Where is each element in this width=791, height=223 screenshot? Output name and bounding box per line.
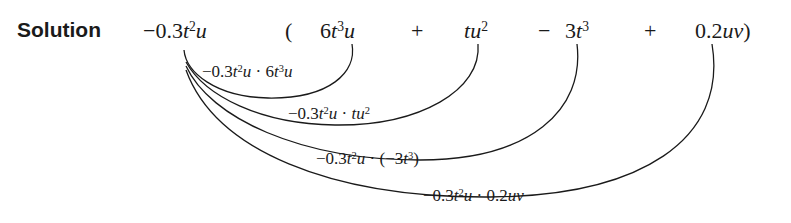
variable: t	[319, 104, 324, 123]
exponent: 2	[324, 105, 329, 116]
product-1: −0.3t2u · 6t3u	[202, 63, 293, 80]
variable: uv	[508, 186, 524, 205]
variable: tu	[352, 104, 365, 123]
dot-operator: ·	[342, 104, 348, 123]
product-coef: −0.3	[288, 104, 319, 123]
variable: u	[357, 149, 366, 168]
exponent: 2	[459, 187, 464, 198]
close-paren: )	[413, 149, 419, 168]
product-3: −0.3t2u · (−3t3)	[316, 150, 419, 167]
exponent: 3	[408, 150, 413, 161]
exponent: 2	[238, 63, 243, 74]
variable: u	[464, 186, 473, 205]
product-coef: 6	[266, 62, 275, 81]
product-coef: 0.2	[487, 186, 508, 205]
distribution-arcs	[0, 0, 791, 223]
dot-operator: ·	[477, 186, 483, 205]
variable: t	[454, 186, 459, 205]
exponent: 2	[352, 150, 357, 161]
variable: t	[233, 62, 238, 81]
dot-operator: ·	[370, 149, 376, 168]
product-coef: −0.3	[316, 149, 347, 168]
exponent: 3	[279, 63, 284, 74]
variable: u	[243, 62, 252, 81]
variable: u	[329, 104, 338, 123]
product-2: −0.3t2u · tu2	[288, 105, 370, 122]
distribution-diagram: Solution −0.3t2u ( 6t3u + tu2 − 3t3 + 0.…	[0, 0, 791, 223]
dot-operator: ·	[256, 62, 262, 81]
variable: u	[284, 62, 293, 81]
product-coef: −0.3	[202, 62, 233, 81]
variable: t	[347, 149, 352, 168]
exponent: 2	[365, 105, 370, 116]
product-coef: −0.3	[423, 186, 454, 205]
product-4: −0.3t2u · 0.2uv	[423, 187, 524, 204]
product-coef: (−3	[380, 149, 404, 168]
